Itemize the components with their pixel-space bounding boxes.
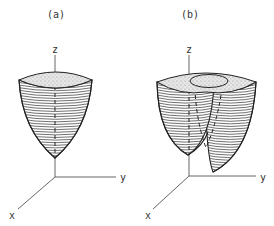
z-axis-label: z (186, 44, 192, 55)
panel-b-caption: (b) (181, 9, 199, 20)
x-axis (18, 177, 55, 209)
diagram-canvas: (a) z y x (b) z y x (0, 0, 274, 226)
contour-line (201, 165, 260, 169)
contour-line (201, 167, 260, 171)
contour-line (153, 154, 218, 158)
panel-a-caption: (a) (47, 9, 65, 20)
contour-line (15, 160, 96, 164)
y-axis-label: y (120, 172, 126, 183)
contour-line (201, 170, 260, 174)
panel-a: (a) z y x (9, 9, 126, 221)
contour-line (153, 157, 218, 161)
panel-b: (b) z y x (145, 9, 266, 221)
paraboloid-bowl (15, 72, 96, 164)
x-axis (153, 176, 189, 209)
x-axis-label: x (145, 210, 151, 221)
contour-line (201, 175, 260, 179)
z-axis-label: z (52, 44, 58, 55)
contour-line (201, 172, 260, 176)
y-axis-label: y (260, 172, 266, 183)
x-axis-label: x (9, 210, 15, 221)
